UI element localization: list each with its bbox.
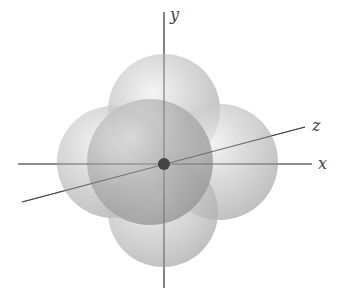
orbital-diagram: y z x — [0, 0, 344, 302]
nucleus-dot — [158, 158, 170, 170]
z-axis-label: z — [311, 116, 321, 135]
front-lobe — [87, 99, 213, 225]
y-axis-label: y — [169, 5, 180, 24]
x-axis-label: x — [318, 154, 327, 173]
diagram-canvas: y z x — [0, 0, 344, 302]
